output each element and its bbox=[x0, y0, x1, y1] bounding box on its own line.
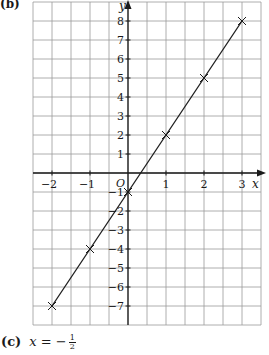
tick-labels: xyO−2−112387654321−1−2−3−4−5−6−7 bbox=[41, 0, 259, 313]
x-axis-label: x bbox=[252, 177, 259, 191]
x-tick-label: 3 bbox=[239, 178, 246, 191]
y-tick-label: 7 bbox=[117, 34, 124, 47]
y-tick-label: 5 bbox=[117, 72, 124, 85]
y-tick-label: 6 bbox=[117, 53, 124, 66]
y-tick-label: −1 bbox=[108, 186, 124, 199]
y-tick-label: −3 bbox=[108, 224, 124, 237]
y-tick-label: −7 bbox=[108, 300, 124, 313]
x-tick-label: −1 bbox=[79, 178, 95, 191]
y-axis-label: y bbox=[118, 0, 126, 13]
x-axis-arrow-icon bbox=[257, 170, 266, 177]
x-tick-label: 2 bbox=[201, 178, 208, 191]
y-tick-label: 3 bbox=[117, 110, 124, 123]
y-tick-label: 2 bbox=[117, 129, 124, 142]
denominator: 2 bbox=[69, 343, 76, 351]
y-tick-label: 1 bbox=[117, 148, 124, 161]
axes bbox=[33, 0, 266, 325]
y-tick-label: −5 bbox=[108, 262, 124, 275]
y-tick-label: 4 bbox=[117, 91, 124, 104]
x-tick-label: 1 bbox=[163, 178, 170, 191]
answer-variable: x bbox=[29, 334, 36, 349]
equals-sign: = bbox=[41, 334, 52, 349]
fraction: 12 bbox=[69, 334, 76, 351]
y-tick-label: −4 bbox=[108, 243, 124, 256]
minus-sign: − bbox=[56, 334, 67, 349]
part-c-answer: (c)x = −12 bbox=[1, 334, 76, 351]
y-tick-label: 8 bbox=[117, 15, 124, 28]
x-tick-label: −2 bbox=[41, 178, 57, 191]
y-tick-label: −2 bbox=[108, 205, 124, 218]
y-tick-label: −6 bbox=[108, 281, 124, 294]
line-graph: xyO−2−112387654321−1−2−3−4−5−6−7 bbox=[0, 0, 269, 330]
part-c-label: (c) bbox=[1, 334, 21, 349]
